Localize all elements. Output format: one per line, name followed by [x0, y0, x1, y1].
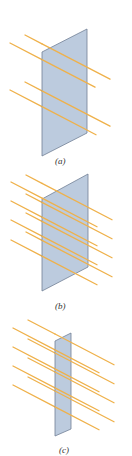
- plate-b: [42, 174, 88, 291]
- panel-label-a: (a): [55, 156, 66, 166]
- panel-a: (a): [10, 29, 110, 166]
- light-ray-incoming: [11, 201, 42, 217]
- light-ray-incoming: [26, 232, 42, 240]
- light-ray-incoming: [28, 358, 55, 372]
- light-ray-incoming: [26, 194, 42, 202]
- light-ray-incoming: [28, 320, 55, 334]
- light-ray-incoming: [11, 182, 42, 198]
- panel-c: (c): [13, 320, 114, 455]
- light-ray-incoming: [10, 90, 42, 107]
- plate-c: [55, 333, 71, 436]
- light-ray-incoming: [11, 220, 42, 236]
- flux-diagram: (a) (b) (c): [0, 0, 132, 456]
- light-ray-incoming: [25, 82, 42, 91]
- rays-behind-b: [11, 175, 42, 256]
- light-ray-incoming: [26, 175, 42, 183]
- light-ray-incoming: [26, 213, 42, 221]
- rays-behind-a: [10, 35, 42, 107]
- light-ray-incoming: [28, 377, 55, 391]
- panel-b: (b): [11, 174, 112, 311]
- light-ray-incoming: [25, 35, 42, 44]
- light-ray-incoming: [11, 240, 42, 256]
- light-ray-incoming: [28, 339, 55, 353]
- panel-label-c: (c): [59, 445, 69, 455]
- rays-behind-c: [13, 320, 55, 407]
- light-ray-incoming: [10, 43, 42, 60]
- panel-label-b: (b): [55, 301, 66, 311]
